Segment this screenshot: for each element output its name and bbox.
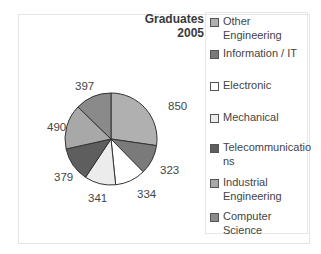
data-label: 490	[47, 121, 66, 133]
legend-swatch-icon	[210, 213, 219, 222]
data-label: 379	[54, 171, 73, 183]
legend-item: Computer Science	[210, 209, 307, 237]
legend-swatch-icon	[210, 50, 219, 59]
legend-item: Telecommunicatio ns	[210, 140, 300, 168]
legend-swatch-icon	[210, 18, 219, 27]
data-label: 341	[88, 192, 107, 204]
legend-swatch-icon	[210, 179, 219, 188]
chart-legend: Other Engineering Information / IT Elect…	[205, 12, 308, 234]
legend-item: Information / IT	[210, 46, 297, 60]
legend-item: Industrial Engineering	[210, 175, 300, 203]
data-label: 397	[75, 80, 94, 92]
pie-slice	[111, 93, 157, 146]
legend-swatch-icon	[210, 82, 219, 91]
data-label: 323	[160, 164, 179, 176]
legend-swatch-icon	[210, 144, 219, 153]
data-label: 334	[137, 188, 156, 200]
legend-item: Mechanical	[210, 110, 279, 124]
legend-swatch-icon	[210, 114, 219, 123]
legend-item: Other Engineering	[210, 14, 307, 42]
legend-item: Electronic	[210, 78, 271, 92]
data-label: 850	[168, 100, 187, 112]
